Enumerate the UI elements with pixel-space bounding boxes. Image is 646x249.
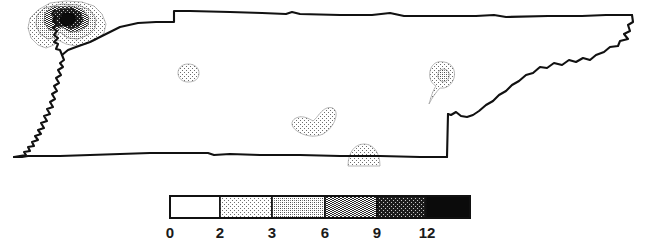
legend-swatch-6 [325,196,377,218]
legend-tick-label-3: 3 [268,224,276,241]
contour-band-2 [292,107,336,136]
legend-swatch-0 [170,196,220,218]
state-outline-group [14,10,633,157]
tennessee-contour-map: 0 2 3 6 9 12 [0,0,646,249]
southern-border [14,153,447,157]
contour-band-3 [438,69,449,82]
legend-swatch-9 [377,196,426,218]
legend-swatch-12 [426,196,470,218]
central-spot [292,107,336,136]
northern-border [62,11,632,55]
contour-surface [28,1,455,166]
legend-swatch-3 [272,196,325,218]
legend-tick-label-12: 12 [419,224,436,241]
legend-swatch-2 [220,196,272,218]
legend-tick-label-9: 9 [373,224,381,241]
east-central-spot [429,62,455,104]
legend: 0 2 3 6 9 12 [166,196,470,241]
legend-tick-label-2: 2 [216,224,224,241]
legend-tick-label-6: 6 [321,224,329,241]
map-figure-root: 0 2 3 6 9 12 [0,0,646,249]
legend-tick-label-0: 0 [166,224,174,241]
eastern-border [448,15,633,117]
west-central-spot [178,64,199,82]
contour-band-2 [429,62,455,104]
southeast-jog [447,114,448,157]
contour-band-2 [178,64,199,82]
